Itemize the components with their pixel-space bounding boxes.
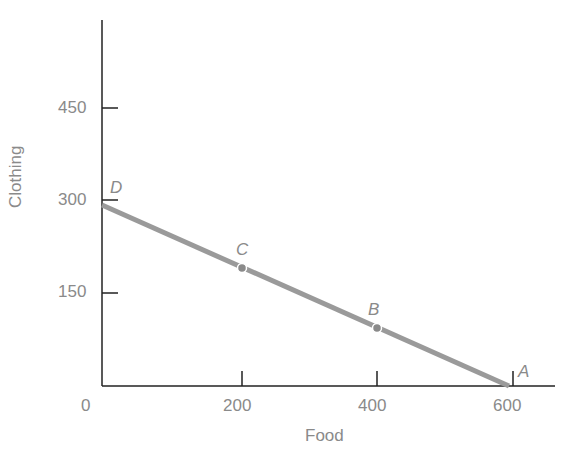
point-label-c: C [236, 240, 248, 260]
point-b [373, 324, 382, 333]
y-tick-label-150: 150 [58, 282, 86, 302]
x-tick-label-0: 0 [81, 396, 90, 416]
x-tick-label-600: 600 [493, 396, 521, 416]
ppf-line [102, 205, 509, 386]
x-axis-label: Food [305, 426, 344, 446]
point-label-d: D [110, 178, 122, 198]
point-label-b: B [368, 300, 379, 320]
point-c [238, 264, 247, 273]
y-axis-label: Clothing [6, 146, 26, 208]
y-tick-label-300: 300 [58, 190, 86, 210]
chart-canvas [0, 0, 578, 459]
point-label-a: A [518, 362, 529, 382]
y-tick-label-450: 450 [58, 98, 86, 118]
x-tick-label-400: 400 [358, 396, 386, 416]
ppf-chart: 450 300 150 0 200 400 600 Food Clothing … [0, 0, 578, 459]
x-tick-label-200: 200 [223, 396, 251, 416]
